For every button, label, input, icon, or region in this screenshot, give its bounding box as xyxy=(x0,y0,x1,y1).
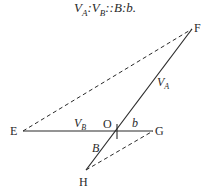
segment-label-VA: VA xyxy=(157,75,169,91)
point-label-H: H xyxy=(79,175,88,189)
segment-label-B: B xyxy=(92,141,100,155)
point-label-G: G xyxy=(155,124,164,138)
point-label-O: O xyxy=(103,117,112,131)
dashed-EF xyxy=(23,29,192,131)
point-label-F: F xyxy=(194,21,201,35)
vector-diagram: F E O G H VA VB b B xyxy=(0,0,210,193)
line-HF xyxy=(86,29,192,170)
segment-label-VB: VB xyxy=(74,116,86,132)
segment-label-b: b xyxy=(132,116,138,130)
point-label-E: E xyxy=(10,124,17,138)
